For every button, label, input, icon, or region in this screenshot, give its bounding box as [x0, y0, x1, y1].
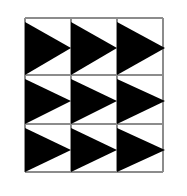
- figure-canvas: [0, 0, 187, 196]
- triangle-grid-figure: [0, 0, 187, 196]
- triangles-layer: [25, 22, 165, 172]
